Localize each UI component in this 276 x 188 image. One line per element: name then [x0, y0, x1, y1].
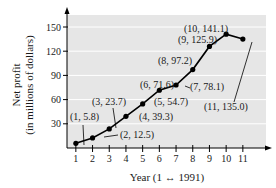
x-tick-label: 1: [73, 153, 78, 164]
data-point: [190, 67, 195, 72]
y-axis-label-line1: Net profit: [10, 63, 22, 106]
data-point: [240, 37, 245, 42]
y-tick-label: 150: [46, 22, 61, 33]
x-tick-label: 9: [207, 153, 212, 164]
data-label: (5, 54.7): [154, 96, 188, 108]
y-axis-label-line2: (in millions of dollars): [23, 35, 36, 135]
y-axis-label: Net profit (in millions of dollars): [10, 35, 36, 135]
y-tick-label: 60: [51, 94, 61, 105]
x-axis-arrow-icon: [265, 146, 272, 151]
x-tick-label: 10: [221, 153, 231, 164]
x-tick-label: 4: [123, 153, 128, 164]
data-label: (9, 125.9): [178, 34, 217, 46]
data-point: [90, 135, 95, 140]
chart-canvas: 306090120150 1234567891011 (1, 5.8)(2, 1…: [0, 0, 276, 188]
data-label: (7, 78.1): [190, 81, 224, 93]
x-tick-label: 11: [238, 153, 248, 164]
data-point: [73, 141, 78, 146]
data-label: (2, 12.5): [120, 129, 154, 141]
data-point: [123, 114, 128, 119]
data-label: (3, 23.7): [92, 96, 126, 108]
y-tick-label: 90: [51, 70, 61, 81]
y-axis-arrow-icon: [65, 7, 70, 14]
data-label: (11, 135.0): [204, 101, 248, 113]
x-tick-label: 7: [174, 153, 179, 164]
data-point: [140, 101, 145, 106]
data-label: (4, 39.3): [139, 111, 173, 123]
line-chart: 306090120150 1234567891011 (1, 5.8)(2, 1…: [0, 0, 276, 188]
data-label: (10, 141.1): [184, 23, 228, 35]
y-tick-label: 120: [46, 46, 61, 57]
x-tick-label: 3: [107, 153, 112, 164]
x-axis-label: Year (1 ↔ 1991): [130, 171, 205, 184]
data-label: (8, 97.2): [158, 55, 192, 67]
data-point: [107, 126, 112, 131]
y-tick-label: 30: [51, 118, 61, 129]
x-tick-label: 6: [157, 153, 162, 164]
x-tick-label: 5: [140, 153, 145, 164]
y-ticks: 306090120150: [46, 22, 68, 130]
data-label: (1, 5.8): [70, 111, 99, 123]
data-label: (6, 71.6): [140, 79, 174, 91]
data-point: [173, 82, 178, 87]
x-tick-label: 2: [90, 153, 95, 164]
x-tick-label: 8: [190, 153, 195, 164]
